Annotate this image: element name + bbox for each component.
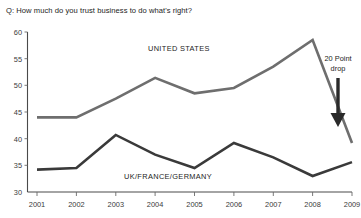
y-tick-label-35: 35 [14, 161, 22, 170]
series-label-uk-france-germany: UK/FRANCE/GERMANY [124, 172, 212, 181]
x-tick-label-2001: 2001 [29, 200, 45, 209]
x-tick-label-2008: 2008 [304, 200, 320, 209]
x-tick-label-2005: 2005 [186, 200, 202, 209]
x-tick-label-2002: 2002 [68, 200, 84, 209]
x-tick-label-2009: 2009 [344, 200, 360, 209]
chart-container: Q: How much do you trust business to do … [0, 0, 361, 218]
y-tick-label-45: 45 [14, 108, 22, 117]
x-tick-label-2003: 2003 [108, 200, 124, 209]
x-tick-label-2007: 2007 [265, 200, 281, 209]
series-label-united-states: UNITED STATES [148, 44, 210, 53]
annotation-line-2: drop [331, 64, 346, 73]
series-line-uk-france-germany [37, 135, 352, 176]
y-tick-label-30: 30 [14, 188, 22, 197]
y-tick-label-50: 50 [14, 81, 22, 90]
series-line-united-states [37, 40, 352, 143]
y-tick-label-60: 60 [14, 28, 22, 37]
line-chart-plot: 60 55 50 45 40 35 30 2001 2002 2003 2004… [0, 0, 361, 218]
x-tick-label-2004: 2004 [147, 200, 163, 209]
y-tick-label-40: 40 [14, 135, 22, 144]
x-tick-label-2006: 2006 [226, 200, 242, 209]
y-tick-label-55: 55 [14, 55, 22, 64]
annotation-line-1: 20 Point [324, 54, 351, 63]
